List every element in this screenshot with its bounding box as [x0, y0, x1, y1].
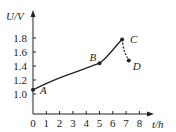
y-axis-arrow-icon [31, 10, 36, 17]
point-label-d: D [132, 60, 141, 72]
series-lines [33, 39, 129, 89]
point-label-c: C [130, 33, 138, 45]
point-label-b: B [90, 51, 97, 63]
x-tick-label: 3 [70, 117, 76, 129]
x-tick-label: 6 [110, 117, 116, 129]
series-line-c-d [122, 39, 129, 60]
y-tick-label: 1.8 [13, 32, 27, 44]
point-label-a: A [39, 84, 47, 96]
x-tick-label: 7 [123, 117, 129, 129]
y-tick-label: 1.6 [13, 46, 27, 58]
x-tick-label: 2 [57, 117, 63, 129]
point-c [120, 37, 124, 41]
x-tick-label: 0 [30, 117, 36, 129]
series-line-b-c [100, 39, 123, 63]
x-tick-label: 5 [97, 117, 103, 129]
chart: 012345678 1.01.21.41.61.8 U/V t/h ABCD [0, 0, 176, 132]
x-axis-title: t/h [152, 118, 164, 130]
x-axis-arrow-icon [147, 112, 154, 117]
x-tick-label: 4 [83, 117, 89, 129]
point-b [98, 61, 102, 65]
point-a [31, 88, 35, 92]
x-tick-label: 8 [137, 117, 143, 129]
y-axis-title: U/V [6, 10, 25, 22]
data-points: ABCD [31, 33, 141, 95]
point-d [127, 58, 131, 62]
y-tick-label: 1.0 [13, 88, 27, 100]
x-tick-label: 1 [44, 117, 50, 129]
y-tick-label: 1.2 [13, 74, 27, 86]
y-tick-label: 1.4 [13, 60, 27, 72]
